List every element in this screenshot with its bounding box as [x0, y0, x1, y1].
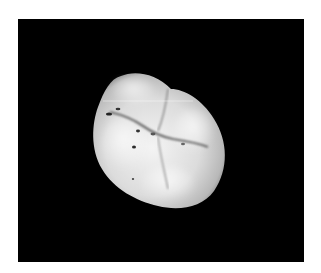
- tooth-image: [18, 19, 304, 262]
- photo-frame: [18, 19, 304, 262]
